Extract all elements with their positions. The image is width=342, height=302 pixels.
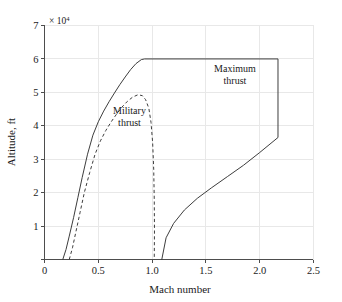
grid-lines <box>45 26 314 260</box>
x-tick-label: 2.5 <box>307 265 320 276</box>
tick-marks <box>41 26 314 264</box>
maximum-thrust-label: Maximumthrust <box>214 63 256 86</box>
x-tick-label: 2.0 <box>253 265 266 276</box>
flight-envelope-chart: 00.51.01.52.02.51234567 × 104 Mach numbe… <box>0 0 342 302</box>
y-tick-label: 1 <box>33 221 38 232</box>
y-tick-label: 6 <box>33 54 38 65</box>
chart-annotations: MaximumthrustMilitarythrust <box>113 63 256 128</box>
x-tick-label: 0 <box>42 265 47 276</box>
x-tick-label: 0.5 <box>92 265 105 276</box>
y-tick-label: 4 <box>33 120 39 131</box>
x-tick-label: 1.5 <box>199 265 212 276</box>
x-tick-label: 1.0 <box>146 265 159 276</box>
y-tick-label: 5 <box>33 87 38 98</box>
military-thrust-label: Militarythrust <box>113 105 146 128</box>
y-tick-label: 3 <box>33 154 38 165</box>
y-tick-label: 7 <box>33 20 38 31</box>
x-axis-title: Mach number <box>149 283 211 295</box>
tick-labels: 00.51.01.52.02.51234567 <box>33 20 320 275</box>
y-axis-title: Altitude, ft <box>5 118 17 166</box>
axis-lines <box>45 26 314 260</box>
y-tick-label: 2 <box>33 187 38 198</box>
chart-canvas: 00.51.01.52.02.51234567 × 104 Mach numbe… <box>0 0 342 302</box>
y-axis-multiplier: × 104 <box>49 15 70 27</box>
